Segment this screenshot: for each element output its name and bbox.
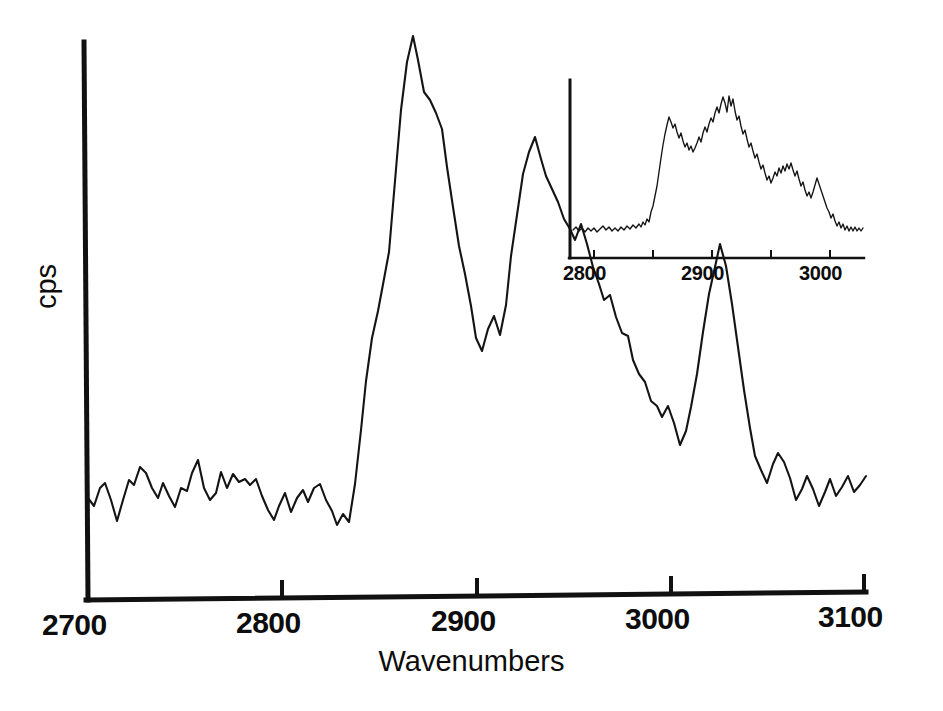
raman-spectrum-figure: 2700 2800 2900 3000 3100 2800 2900 3000 …: [0, 0, 943, 711]
main-tick-label-2700: 2700: [42, 608, 107, 642]
main-y-axis: [84, 42, 88, 600]
main-tick-label-2800: 2800: [236, 606, 301, 640]
y-axis-title: cps: [30, 252, 63, 322]
inset-tick-label-2900: 2900: [681, 262, 724, 285]
main-tick-label-3100: 3100: [818, 600, 883, 634]
x-axis-title: Wavenumbers: [0, 645, 943, 678]
inset-spectrum-trace: [573, 96, 863, 232]
main-tick-label-3000: 3000: [625, 602, 690, 636]
main-tick-label-2900: 2900: [431, 604, 496, 638]
main-spectrum-trace: [88, 36, 866, 525]
inset-tick-label-3000: 3000: [799, 262, 842, 285]
inset-tick-label-2800: 2800: [563, 262, 606, 285]
main-axes: [84, 42, 866, 600]
